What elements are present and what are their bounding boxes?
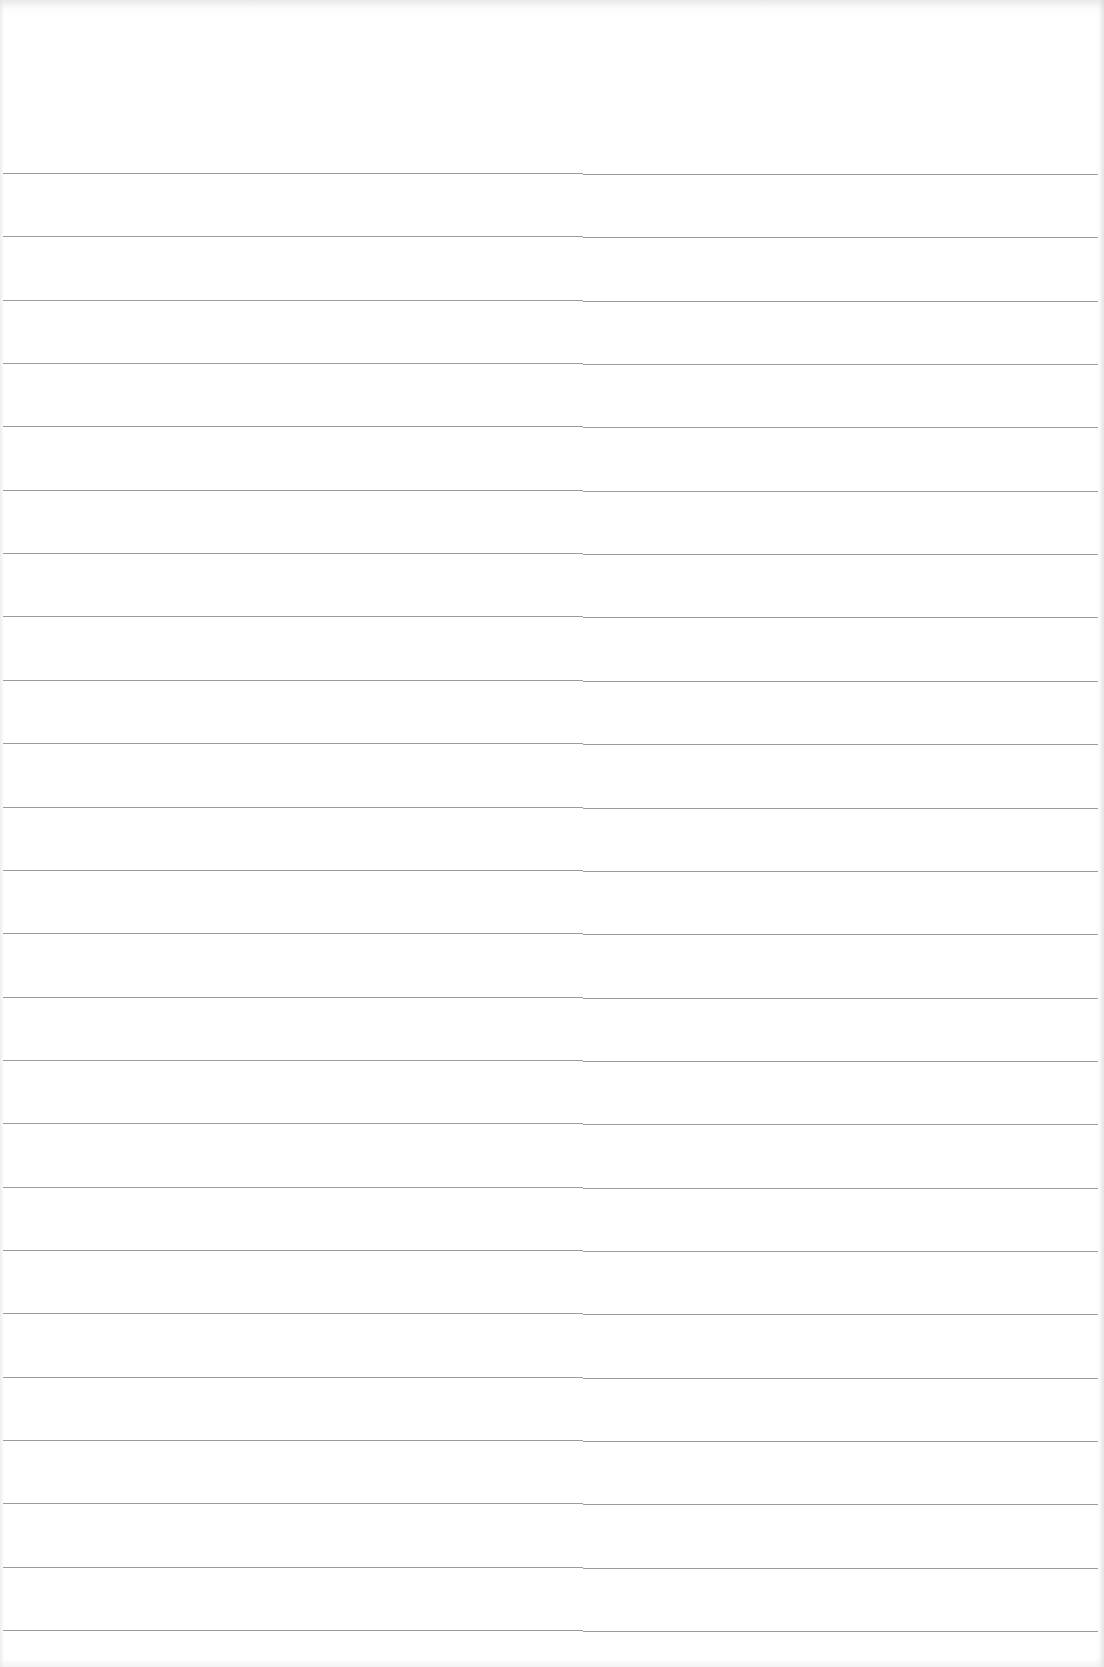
ruled-line: [3, 1187, 1098, 1189]
ruled-line: [3, 300, 1098, 302]
ruled-line-left-segment: [3, 1630, 583, 1631]
ruled-line-right-segment: [583, 808, 1098, 809]
ruled-line: [3, 997, 1098, 999]
ruled-line: [3, 1250, 1098, 1252]
ruled-line: [3, 933, 1098, 935]
scan-right-edge: [1096, 0, 1104, 1667]
ruled-line-right-segment: [583, 491, 1098, 492]
ruled-line: [3, 870, 1098, 872]
ruled-line-right-segment: [583, 871, 1098, 872]
ruled-paper-page: [0, 0, 1104, 1667]
ruled-line: [3, 553, 1098, 555]
ruled-line-right-segment: [583, 998, 1098, 999]
ruled-line: [3, 807, 1098, 809]
ruled-line: [3, 1313, 1098, 1315]
ruled-line-right-segment: [583, 1631, 1098, 1632]
ruled-line-right-segment: [583, 364, 1098, 365]
ruled-line: [3, 426, 1098, 428]
ruled-line-left-segment: [3, 426, 583, 427]
ruled-line-right-segment: [583, 1188, 1098, 1189]
ruled-line-left-segment: [3, 1377, 583, 1378]
ruled-line-left-segment: [3, 1187, 583, 1188]
scan-left-edge: [0, 0, 4, 1667]
ruled-line-left-segment: [3, 870, 583, 871]
ruled-line-right-segment: [583, 681, 1098, 682]
ruled-line-left-segment: [3, 1313, 583, 1314]
ruled-line: [3, 490, 1098, 492]
ruled-line-left-segment: [3, 933, 583, 934]
ruled-line-right-segment: [583, 1441, 1098, 1442]
ruled-line-left-segment: [3, 490, 583, 491]
ruled-line: [3, 1123, 1098, 1125]
ruled-line-right-segment: [583, 427, 1098, 428]
ruled-line-right-segment: [583, 301, 1098, 302]
ruled-line-left-segment: [3, 363, 583, 364]
ruled-line: [3, 680, 1098, 682]
ruled-line-right-segment: [583, 617, 1098, 618]
ruled-line: [3, 1567, 1098, 1569]
ruled-line-left-segment: [3, 807, 583, 808]
ruled-line: [3, 616, 1098, 618]
ruled-line: [3, 363, 1098, 365]
ruled-line: [3, 1440, 1098, 1442]
ruled-line: [3, 1377, 1098, 1379]
ruled-line-left-segment: [3, 743, 583, 744]
ruled-line-right-segment: [583, 1124, 1098, 1125]
ruled-line-right-segment: [583, 554, 1098, 555]
ruled-line-left-segment: [3, 616, 583, 617]
ruled-line: [3, 743, 1098, 745]
ruled-line-right-segment: [583, 174, 1098, 175]
ruled-line: [3, 1060, 1098, 1062]
ruled-line-left-segment: [3, 300, 583, 301]
ruled-line: [3, 1630, 1098, 1632]
ruled-line-left-segment: [3, 1060, 583, 1061]
scan-top-shadow: [0, 0, 1104, 14]
ruled-line: [3, 1503, 1098, 1505]
ruled-line-left-segment: [3, 553, 583, 554]
ruled-line-right-segment: [583, 744, 1098, 745]
scan-bottom-edge: [0, 1659, 1104, 1667]
ruled-line: [3, 236, 1098, 238]
ruled-line-right-segment: [583, 1504, 1098, 1505]
ruled-line-left-segment: [3, 1123, 583, 1124]
ruled-line-right-segment: [583, 1061, 1098, 1062]
ruled-line-right-segment: [583, 1378, 1098, 1379]
ruled-line-left-segment: [3, 1567, 583, 1568]
ruled-line-left-segment: [3, 997, 583, 998]
ruled-line-right-segment: [583, 237, 1098, 238]
ruled-line-left-segment: [3, 1250, 583, 1251]
ruled-line: [3, 173, 1098, 175]
ruled-line-left-segment: [3, 680, 583, 681]
ruled-line-left-segment: [3, 236, 583, 237]
ruled-line-right-segment: [583, 1568, 1098, 1569]
ruled-line-right-segment: [583, 934, 1098, 935]
ruled-line-left-segment: [3, 1503, 583, 1504]
ruled-line-right-segment: [583, 1251, 1098, 1252]
ruled-line-left-segment: [3, 1440, 583, 1441]
ruled-line-right-segment: [583, 1314, 1098, 1315]
ruled-line-left-segment: [3, 173, 583, 174]
